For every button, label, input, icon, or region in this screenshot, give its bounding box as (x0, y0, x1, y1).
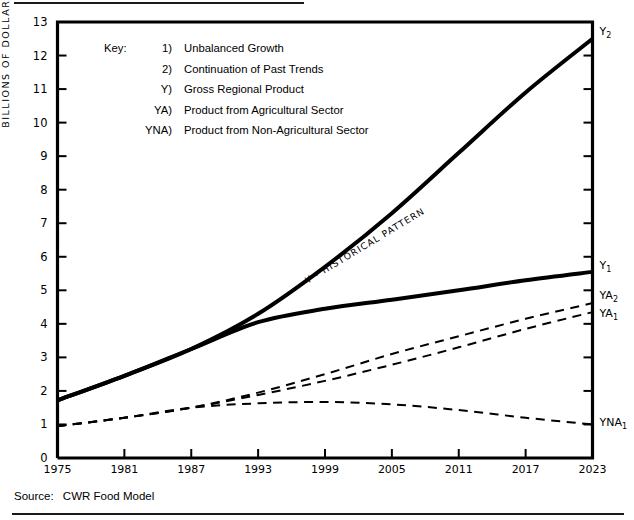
y-tick-label: 5 (22, 284, 48, 296)
y-tick-label: 4 (22, 318, 48, 330)
legend-description: Gross Regional Product (184, 83, 304, 95)
source-label: Source: (14, 490, 54, 502)
legend-description: Unbalanced Growth (184, 42, 284, 54)
y-tick-label: 11 (22, 83, 48, 95)
curve-end-label-y1: Y1 (600, 260, 612, 271)
y-tick-label: 2 (22, 385, 48, 397)
curve-label-subscript: 1 (622, 423, 627, 432)
chart-legend: Key:1)Unbalanced Growth2)Continuation of… (104, 42, 369, 145)
curve-end-label-ya1: YA1 (600, 308, 618, 319)
curve-label-subscript: 1 (613, 313, 618, 322)
x-tick-label: 2005 (367, 464, 417, 476)
x-tick-label: 2017 (501, 464, 551, 476)
x-tick-label: 1993 (233, 464, 283, 476)
y-tick-label: 3 (22, 351, 48, 363)
y-tick-label: 10 (22, 117, 48, 129)
curve-label-base: YNA (600, 416, 622, 429)
source-value: CWR Food Model (63, 490, 154, 502)
legend-tag: 2) (134, 63, 184, 75)
x-tick-label: 2011 (434, 464, 484, 476)
y-tick-label: 6 (22, 251, 48, 263)
y-tick-label: 8 (22, 184, 48, 196)
legend-description: Product from Non-Agricultural Sector (184, 124, 369, 136)
y-tick-label: 12 (22, 50, 48, 62)
y-axis-title: BILLIONS OF DOLLARS (0, 0, 11, 150)
legend-row: YA)Product from Agricultural Sector (104, 104, 369, 116)
curve-label-base: YA (600, 307, 613, 320)
y-tick-label: 13 (22, 16, 48, 28)
legend-row: YNA)Product from Non-Agricultural Sector (104, 124, 369, 136)
curve-end-label-yna1: YNA1 (600, 417, 628, 428)
source-note: Source: CWR Food Model (14, 490, 154, 502)
legend-tag: Y) (134, 83, 184, 95)
legend-tag: YNA) (134, 124, 184, 136)
legend-tag: YA) (134, 104, 184, 116)
chart-figure: BILLIONS OF DOLLARS 012345678910111213 1… (0, 0, 634, 520)
y-axis-title-label: BILLIONS OF DOLLARS (0, 0, 11, 128)
legend-tag: 1) (134, 42, 184, 54)
legend-description: Product from Agricultural Sector (184, 104, 343, 116)
x-tick-label: 1987 (166, 464, 216, 476)
curve-label-subscript: 2 (613, 295, 618, 304)
y-tick-label: 1 (22, 418, 48, 430)
legend-description: Continuation of Past Trends (184, 63, 323, 75)
curve-label-subscript: 1 (606, 265, 611, 274)
series-line-yna1 (58, 402, 593, 426)
legend-row: Key:1)Unbalanced Growth (104, 42, 369, 54)
curve-label-base: YA (600, 289, 613, 302)
series-line-ya2 (58, 303, 593, 426)
y-tick-label: 9 (22, 150, 48, 162)
bottom-divider-rule (12, 513, 624, 515)
x-tick-label: 2023 (568, 464, 618, 476)
curve-end-label-ya2: YA2 (600, 290, 618, 301)
legend-row: 2)Continuation of Past Trends (104, 63, 369, 75)
curve-end-label-y2: Y2 (600, 26, 612, 37)
curve-label-subscript: 2 (606, 31, 611, 40)
x-tick-label: 1981 (99, 464, 149, 476)
x-tick-label: 1975 (33, 464, 83, 476)
y-tick-label: 7 (22, 217, 48, 229)
legend-key-word: Key: (104, 42, 134, 54)
x-tick-label: 1999 (300, 464, 350, 476)
legend-row: Y)Gross Regional Product (104, 83, 369, 95)
